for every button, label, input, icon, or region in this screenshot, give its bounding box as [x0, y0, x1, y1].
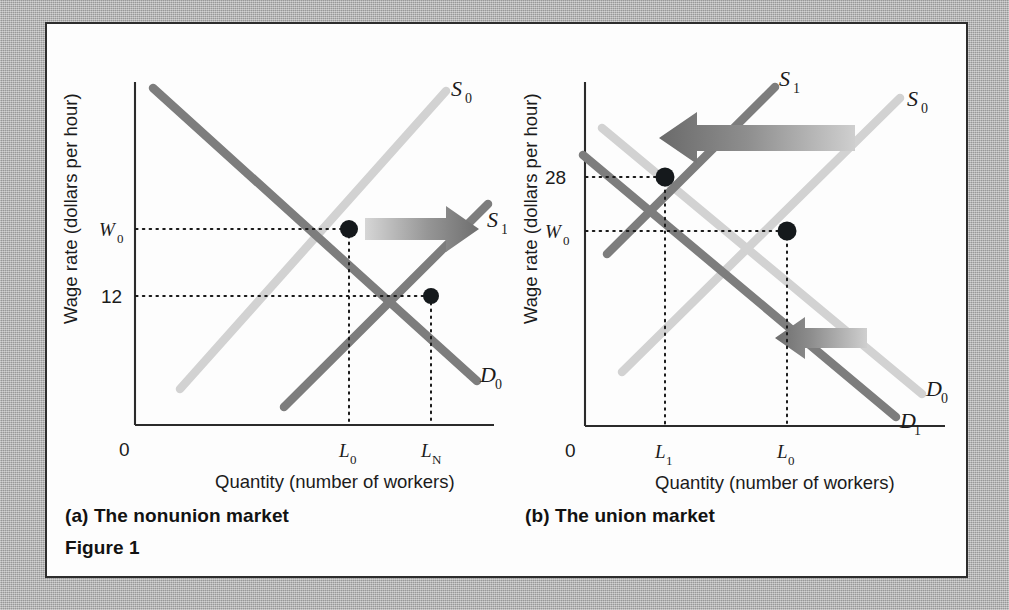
panel-a-x-axis-title: Quantity (number of workers) — [215, 471, 455, 492]
svg-text:0: 0 — [788, 453, 795, 468]
svg-text:1: 1 — [914, 423, 921, 438]
svg-text:D: D — [925, 376, 942, 401]
panel-a-label-s0: S 0 — [451, 76, 472, 106]
panel-a-y-tick-12: 12 — [101, 286, 122, 307]
panel-b-curve-d1 — [583, 155, 896, 417]
chart-panel-b: Wage rate (dollars per hour) — [507, 24, 967, 494]
svg-text:0: 0 — [465, 91, 472, 106]
svg-text:0: 0 — [495, 377, 502, 392]
panel-a-label-s1: S 1 — [487, 207, 507, 237]
svg-text:0: 0 — [117, 231, 124, 246]
panel-b-label-d0: D 0 — [925, 376, 948, 406]
panel-b-supply-shift-arrow — [659, 112, 855, 164]
panel-a-x-tick-ln: L N — [420, 440, 442, 467]
panel-a-supply-shift-arrow — [365, 206, 479, 252]
panel-b-origin-label: 0 — [565, 440, 576, 461]
panel-b-caption: (b) The union market — [525, 505, 715, 527]
svg-text:S: S — [907, 86, 918, 111]
panel-b-y-tick-w0: W 0 — [545, 221, 570, 248]
panel-b-label-d1: D 1 — [899, 408, 921, 438]
panel-a-equilibrium-dot-after — [423, 288, 439, 304]
svg-text:0: 0 — [921, 101, 928, 116]
panel-b-x-tick-l0: L 0 — [776, 441, 795, 468]
svg-text:0: 0 — [941, 391, 948, 406]
svg-text:0: 0 — [563, 233, 570, 248]
svg-text:L: L — [338, 440, 350, 461]
figure-number-label: Figure 1 — [65, 537, 140, 559]
svg-text:L: L — [776, 441, 788, 462]
svg-text:L: L — [420, 440, 432, 461]
panel-b-equilibrium-dot-union — [656, 168, 675, 187]
panel-a-x-tick-l0: L 0 — [338, 440, 357, 467]
panel-a-y-axis-title: Wage rate (dollars per hour) — [60, 93, 81, 324]
panel-a-y-tick-w0: W 0 — [99, 219, 124, 246]
panel-b-x-axis-title: Quantity (number of workers) — [655, 472, 895, 493]
panel-a-origin-label: 0 — [119, 439, 130, 460]
panel-b-label-s1: S 1 — [779, 66, 800, 96]
figure-root: Wage rate (dollars per hour) — [0, 0, 1009, 610]
panel-b-y-axis-title: Wage rate (dollars per hour) — [520, 93, 541, 324]
panel-a-equilibrium-dot-initial — [340, 220, 358, 238]
svg-text:S: S — [779, 66, 790, 91]
svg-text:0: 0 — [350, 452, 357, 467]
panel-b-equilibrium-dot-initial — [778, 222, 797, 241]
svg-text:D: D — [479, 362, 496, 387]
svg-text:W: W — [99, 219, 117, 240]
panel-b-x-tick-l1: L 1 — [654, 441, 673, 468]
svg-text:S: S — [487, 207, 498, 232]
svg-text:1: 1 — [666, 453, 673, 468]
svg-text:L: L — [654, 441, 666, 462]
figure-white-panel: Wage rate (dollars per hour) — [45, 22, 968, 578]
chart-panel-a: Wage rate (dollars per hour) — [47, 24, 507, 494]
svg-text:N: N — [432, 452, 442, 467]
panel-b-y-tick-28: 28 — [545, 167, 566, 188]
panel-a-label-d0: D 0 — [479, 362, 502, 392]
panel-b-label-s0: S 0 — [907, 86, 928, 116]
panel-a-caption: (a) The nonunion market — [65, 505, 289, 527]
panel-b-curve-s1 — [607, 87, 775, 254]
svg-text:S: S — [451, 76, 462, 101]
svg-text:1: 1 — [793, 81, 800, 96]
panel-b-curve-d0 — [602, 128, 922, 394]
svg-text:W: W — [545, 221, 563, 242]
